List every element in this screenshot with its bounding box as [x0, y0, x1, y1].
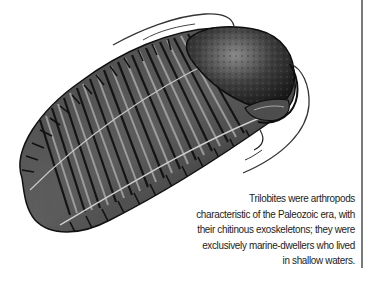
vertical-divider [361, 0, 363, 268]
caption-line: characteristic of the Paleozoic era, wit… [139, 207, 355, 223]
caption-line: in shallow waters. [139, 253, 355, 269]
caption-line: Trilobites were arthropods [139, 191, 355, 207]
caption: Trilobites were arthropods characteristi… [139, 191, 355, 269]
caption-line: exclusively marine-dwellers who lived [139, 238, 355, 254]
caption-line: their chitinous exoskeletons; they were [139, 222, 355, 238]
